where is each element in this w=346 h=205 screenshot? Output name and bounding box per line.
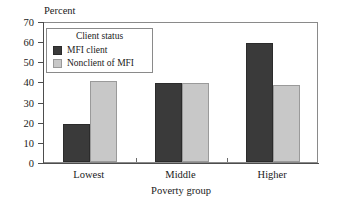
y-tick-label: 20 [0, 117, 34, 128]
y-tick-label: 10 [0, 137, 34, 148]
y-tick-mark [38, 163, 44, 164]
legend-item-nonclient-of-mfi: Nonclient of MFI [53, 58, 134, 68]
x-category-label: Higher [258, 169, 287, 180]
y-axis-title: Percent [44, 5, 76, 16]
y-tick-mark [38, 143, 44, 144]
y-tick-label: 50 [0, 57, 34, 68]
x-tick-mark [227, 158, 228, 162]
legend-item-mfi-client: MFI client [53, 45, 107, 55]
x-category-label: Lowest [73, 169, 104, 180]
bar [273, 85, 300, 162]
y-tick-mark [38, 42, 44, 43]
legend-swatch-icon-mfi-client [53, 46, 62, 55]
y-tick-mark [38, 123, 44, 124]
bar [182, 83, 209, 162]
bar [246, 43, 273, 162]
bar [63, 124, 90, 162]
y-tick-mark [38, 103, 44, 104]
legend-label-nonclient-of-mfi: Nonclient of MFI [67, 58, 134, 68]
x-tick-mark [136, 158, 137, 162]
x-axis-line [43, 163, 319, 164]
bar-chart-figure: Percent 010203040506070 LowestMiddleHigh… [0, 0, 346, 205]
bar [155, 83, 182, 162]
y-tick-label: 40 [0, 77, 34, 88]
bar [90, 81, 117, 162]
legend-title: Client status [47, 31, 152, 41]
legend-label-mfi-client: MFI client [67, 45, 107, 55]
x-category-label: Middle [165, 169, 195, 180]
y-tick-mark [38, 82, 44, 83]
y-tick-label: 60 [0, 37, 34, 48]
y-tick-label: 0 [0, 158, 34, 169]
y-tick-label: 70 [0, 17, 34, 28]
legend: Client status MFI client Nonclient of MF… [46, 28, 153, 73]
y-tick-mark [38, 62, 44, 63]
x-axis-title: Poverty group [151, 185, 211, 196]
legend-swatch-icon-nonclient-of-mfi [53, 59, 62, 68]
y-tick-label: 30 [0, 97, 34, 108]
y-tick-mark [38, 22, 44, 23]
